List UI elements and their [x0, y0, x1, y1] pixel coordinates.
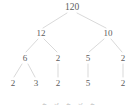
tree-edge-n1-n1a [26, 39, 38, 52]
caption-clip: 2 · 3 · 2 · 5 · 2 [0, 103, 137, 111]
tree-node-120: 120 [65, 3, 79, 12]
tree-node-2-left: 2 [56, 54, 61, 63]
tree-edges [0, 0, 137, 111]
tree-leaf-2-a: 2 [11, 79, 16, 88]
tree-edge-n1a-n1a1 [14, 64, 22, 77]
tree-node-5: 5 [86, 54, 91, 63]
tree-edge-n2-n2a [89, 39, 104, 52]
tree-node-12: 12 [37, 29, 46, 38]
tree-edge-n1a-n1a2 [28, 64, 35, 77]
tree-leaf-2-c: 2 [121, 79, 126, 88]
tree-edge-n0-n2 [77, 13, 106, 28]
tree-edge-n1-n1b [44, 39, 57, 52]
tree-leaf-3: 3 [34, 79, 39, 88]
tree-node-10: 10 [104, 29, 113, 38]
tree-edge-n2-n2b [111, 39, 122, 52]
factor-tree-figure: 120 12 10 6 2 5 2 2 3 2 5 2 2 · 3 · 2 · … [0, 0, 137, 111]
tree-node-2-right: 2 [121, 54, 126, 63]
tree-leaf-5: 5 [86, 79, 91, 88]
tree-leaf-2-b: 2 [56, 79, 61, 88]
factorization-caption: 2 · 3 · 2 · 5 · 2 [42, 103, 95, 107]
tree-edge-n0-n1 [43, 13, 67, 28]
tree-node-6: 6 [23, 54, 28, 63]
